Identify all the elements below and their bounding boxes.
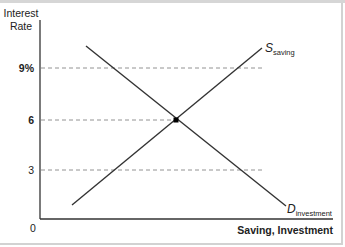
x-axis-label: Saving, Investment — [237, 224, 333, 236]
y-tick-3: 3 — [28, 164, 34, 176]
y-tick-6: 6 — [28, 114, 34, 126]
y-axis-label-line2: Rate — [10, 20, 32, 32]
y-axis-label-line1: Interest — [3, 7, 38, 19]
saving-supply-curve — [72, 48, 262, 205]
demand-curve-label: Dinvestment — [287, 202, 333, 218]
supply-demand-chart: Interest Rate 9% 6 3 0 Saving, Investmen… — [0, 0, 345, 247]
investment-demand-curve — [86, 46, 286, 206]
y-tick-9: 9% — [19, 62, 35, 74]
supply-curve-label: Ssaving — [265, 41, 295, 57]
equilibrium-point — [174, 118, 179, 123]
origin-label: 0 — [30, 222, 36, 234]
